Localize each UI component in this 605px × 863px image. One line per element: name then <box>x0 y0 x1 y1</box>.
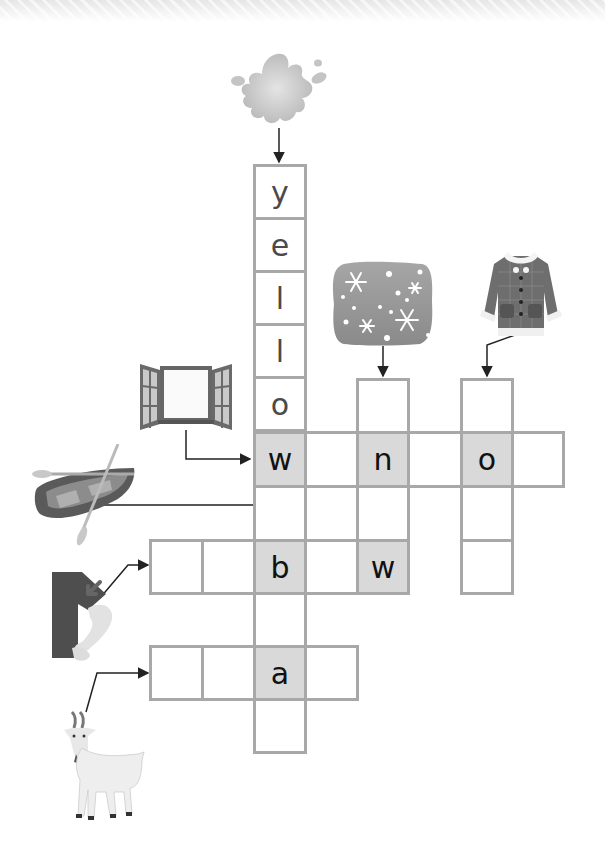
crossword-cell[interactable] <box>149 645 204 701</box>
crossword-cell[interactable]: w <box>356 539 410 595</box>
crossword-cell[interactable]: w <box>253 431 307 488</box>
crossword-cell[interactable] <box>460 485 514 542</box>
crossword-cell[interactable] <box>201 539 256 595</box>
crossword-cell[interactable] <box>201 645 256 701</box>
crossword-cell[interactable]: n <box>356 431 410 488</box>
crossword-cell[interactable] <box>511 431 565 488</box>
boat-icon <box>30 444 138 548</box>
paint-splash-icon <box>222 48 332 130</box>
cell-letter: y <box>271 175 289 210</box>
crossword-cell[interactable] <box>253 485 307 542</box>
crossword-cell[interactable]: b <box>253 539 307 595</box>
cell-letter: w <box>268 442 293 477</box>
window-icon <box>138 360 234 432</box>
cell-letter: o <box>478 442 496 477</box>
cell-letter: b <box>270 550 289 585</box>
crossword-cell[interactable]: y <box>253 164 307 220</box>
crossword-cell[interactable] <box>356 485 410 542</box>
crossword-cell[interactable]: o <box>253 376 307 432</box>
crossword-cell[interactable] <box>253 592 307 648</box>
crossword-cell[interactable]: l <box>253 270 307 326</box>
cell-letter: a <box>271 656 289 691</box>
crossword-cell[interactable] <box>253 698 307 754</box>
crossword-cell[interactable]: l <box>253 323 307 379</box>
crossword-cell[interactable]: a <box>253 645 307 701</box>
elbow-icon <box>48 568 122 664</box>
crossword-cell[interactable]: o <box>460 431 514 488</box>
crossword-cell[interactable] <box>149 539 204 595</box>
snow-icon <box>332 260 434 346</box>
cell-letter: n <box>373 442 392 477</box>
coat-icon <box>478 252 564 336</box>
crossword-cell[interactable] <box>460 539 514 595</box>
crossword-cell[interactable] <box>460 378 514 434</box>
cell-letter: l <box>276 334 284 369</box>
crossword-cell[interactable] <box>356 378 410 434</box>
crossword-cell[interactable] <box>304 431 359 488</box>
crossword-cell[interactable] <box>304 539 359 595</box>
cell-letter: o <box>271 387 289 422</box>
crossword-cell[interactable]: e <box>253 217 307 273</box>
crossword-cell[interactable] <box>304 645 359 701</box>
cell-letter: l <box>276 281 284 316</box>
cell-letter: w <box>371 550 396 585</box>
goat-icon <box>58 708 150 824</box>
cell-letter: e <box>271 228 289 263</box>
crossword-cell[interactable] <box>407 431 463 488</box>
